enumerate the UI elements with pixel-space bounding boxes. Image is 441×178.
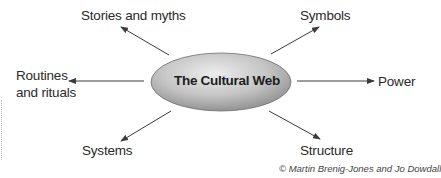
- node-systems: Systems: [82, 142, 132, 159]
- margin-dots: [1, 100, 5, 160]
- center-title: The Cultural Web: [174, 73, 280, 88]
- arrow-systems: [121, 111, 171, 141]
- node-power: Power: [378, 73, 415, 90]
- arrow-structure: [269, 111, 320, 139]
- node-routines-line2: and rituals: [16, 84, 76, 101]
- copyright-credit: © Martin Brenig-Jones and Jo Dowdall: [279, 163, 441, 174]
- node-symbols: Symbols: [300, 7, 350, 24]
- arrow-symbols: [271, 27, 319, 54]
- node-routines-line1: Routines: [16, 67, 68, 84]
- node-structure: Structure: [300, 142, 353, 159]
- node-stories-and-myths: Stories and myths: [81, 7, 186, 24]
- arrow-stories: [121, 27, 169, 55]
